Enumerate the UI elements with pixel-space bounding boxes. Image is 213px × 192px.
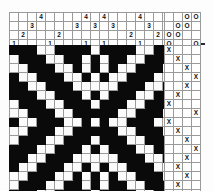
drawdown-cell[interactable] <box>145 91 154 100</box>
drawdown-cell[interactable] <box>109 145 118 154</box>
drawdown-cell[interactable] <box>10 154 19 163</box>
treadling-cell[interactable]: X <box>192 145 201 154</box>
drawdown-cell[interactable] <box>100 73 109 82</box>
drawdown-cell[interactable] <box>82 118 91 127</box>
drawdown-cell[interactable] <box>64 64 73 73</box>
drawdown-cell[interactable] <box>82 64 91 73</box>
drawdown-cell[interactable] <box>55 118 64 127</box>
drawdown-cell[interactable] <box>109 73 118 82</box>
drawdown-cell[interactable] <box>28 109 37 118</box>
drawdown-cell[interactable] <box>82 55 91 64</box>
drawdown-cell[interactable] <box>46 109 55 118</box>
drawdown-cell[interactable] <box>82 172 91 181</box>
drawdown-cell[interactable] <box>55 181 64 190</box>
drawdown-cell[interactable] <box>46 82 55 91</box>
drawdown-cell[interactable] <box>118 127 127 136</box>
drawdown-cell[interactable] <box>10 172 19 181</box>
treadling-section[interactable]: XXXXXXXXXXXXXXXXX <box>164 45 201 191</box>
treadling-cell[interactable] <box>174 82 183 91</box>
drawdown-cell[interactable] <box>55 64 64 73</box>
drawdown-cell[interactable] <box>37 82 46 91</box>
tieup-cell[interactable] <box>192 31 201 40</box>
threading-cell[interactable] <box>91 13 100 22</box>
drawdown-cell[interactable] <box>100 82 109 91</box>
drawdown-cell[interactable] <box>109 55 118 64</box>
drawdown-cell[interactable] <box>55 154 64 163</box>
treadling-cell[interactable]: X <box>183 136 192 145</box>
treadling-cell[interactable] <box>165 73 174 82</box>
drawdown-cell[interactable] <box>109 163 118 172</box>
drawdown-cell[interactable] <box>136 136 145 145</box>
threading-cell[interactable] <box>154 22 163 31</box>
drawdown-cell[interactable] <box>109 172 118 181</box>
drawdown-cell[interactable] <box>73 145 82 154</box>
drawdown-cell[interactable] <box>55 109 64 118</box>
treadling-cell[interactable]: X <box>174 55 183 64</box>
threading-cell[interactable] <box>118 13 127 22</box>
treadling-cell[interactable] <box>165 181 174 190</box>
drawdown-cell[interactable] <box>28 181 37 190</box>
drawdown-cell[interactable] <box>91 100 100 109</box>
drawdown-cell[interactable] <box>46 190 55 192</box>
threading-cell[interactable] <box>10 22 19 31</box>
drawdown-cell[interactable] <box>136 100 145 109</box>
drawdown-cell[interactable] <box>82 154 91 163</box>
threading-cell[interactable] <box>91 31 100 40</box>
drawdown-cell[interactable] <box>64 154 73 163</box>
drawdown-cell[interactable] <box>73 109 82 118</box>
threading-cell[interactable] <box>109 31 118 40</box>
drawdown-cell[interactable] <box>100 172 109 181</box>
drawdown-cell[interactable] <box>118 118 127 127</box>
tieup-cell[interactable] <box>192 22 201 31</box>
threading-cell[interactable]: 3 <box>73 22 82 31</box>
drawdown-cell[interactable] <box>118 109 127 118</box>
drawdown-cell[interactable] <box>46 154 55 163</box>
drawdown-cell[interactable] <box>118 163 127 172</box>
drawdown-cell[interactable] <box>91 145 100 154</box>
threading-cell[interactable]: 3 <box>145 22 154 31</box>
drawdown-cell[interactable] <box>118 154 127 163</box>
drawdown-cell[interactable] <box>136 163 145 172</box>
drawdown-cell[interactable] <box>73 154 82 163</box>
drawdown-cell[interactable] <box>154 172 163 181</box>
drawdown-cell[interactable] <box>10 55 19 64</box>
drawdown-cell[interactable] <box>154 190 163 192</box>
treadling-cell[interactable] <box>165 163 174 172</box>
threading-cell[interactable]: 4 <box>82 13 91 22</box>
drawdown-cell[interactable] <box>37 46 46 55</box>
drawdown-cell[interactable] <box>109 64 118 73</box>
threading-cell[interactable] <box>10 13 19 22</box>
threading-cell[interactable] <box>136 22 145 31</box>
treadling-cell[interactable] <box>183 163 192 172</box>
threading-cell[interactable] <box>73 31 82 40</box>
treadling-cell[interactable] <box>192 100 201 109</box>
treadling-cell[interactable]: X <box>183 154 192 163</box>
treadling-cell[interactable] <box>174 109 183 118</box>
drawdown-cell[interactable] <box>19 154 28 163</box>
treadling-cell[interactable] <box>192 127 201 136</box>
drawdown-cell[interactable] <box>55 100 64 109</box>
drawdown-cell[interactable] <box>19 82 28 91</box>
drawdown-cell[interactable] <box>127 64 136 73</box>
drawdown-cell[interactable] <box>55 82 64 91</box>
drawdown-cell[interactable] <box>145 136 154 145</box>
drawdown-cell[interactable] <box>10 136 19 145</box>
treadling-cell[interactable] <box>183 181 192 190</box>
drawdown-cell[interactable] <box>28 154 37 163</box>
treadling-cell[interactable] <box>192 64 201 73</box>
threading-cell[interactable] <box>28 13 37 22</box>
drawdown-cell[interactable] <box>10 64 19 73</box>
threading-cell[interactable] <box>118 22 127 31</box>
drawdown-cell[interactable] <box>136 82 145 91</box>
treadling-cell[interactable]: X <box>183 82 192 91</box>
threading-cell[interactable] <box>82 31 91 40</box>
threading-cell[interactable] <box>64 13 73 22</box>
drawdown-cell[interactable] <box>91 181 100 190</box>
drawdown-cell[interactable] <box>127 190 136 192</box>
drawdown-cell[interactable] <box>37 91 46 100</box>
drawdown-cell[interactable] <box>100 163 109 172</box>
drawdown-cell[interactable] <box>91 73 100 82</box>
drawdown-cell[interactable] <box>19 172 28 181</box>
drawdown-cell[interactable] <box>28 172 37 181</box>
drawdown-cell[interactable] <box>118 82 127 91</box>
